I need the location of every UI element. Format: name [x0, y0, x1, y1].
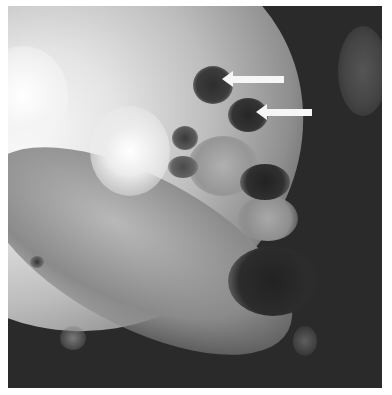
- dark-vacuole-4: [168, 156, 198, 178]
- gray-projection-2: [238, 196, 298, 241]
- small-dark-dot: [30, 256, 44, 268]
- arrow-2-icon: [266, 109, 312, 116]
- micrograph: [8, 6, 382, 388]
- dark-region-lower: [228, 246, 318, 316]
- gray-dot-lower-left: [60, 326, 86, 350]
- bright-spot-center: [90, 106, 170, 196]
- arrow-1-icon: [232, 76, 284, 83]
- dark-vacuole-3: [172, 126, 198, 150]
- right-cell-outline: [338, 26, 382, 116]
- dark-vacuole-5: [240, 164, 290, 200]
- gray-dot-lower-right: [293, 326, 317, 356]
